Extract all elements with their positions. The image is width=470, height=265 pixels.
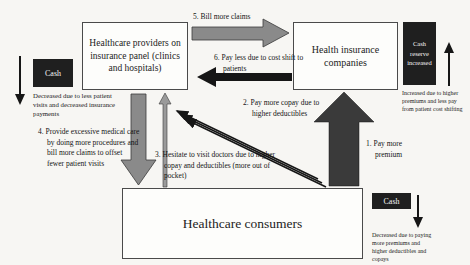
flow-text: Pay more premium (374, 139, 403, 159)
flow-number: 1. (366, 139, 372, 148)
healthcare-flow-diagram: Healthcare providers on insurance panel … (0, 0, 470, 265)
flow-text: Provide excessive medical care by doing … (46, 127, 140, 168)
providers-box-title: Healthcare providers on insurance panel … (87, 37, 183, 74)
flow-label-excessive-care: 4. Provide excessive medical care by doi… (38, 127, 141, 169)
cash-box-insurance-label: Cash reserve increased (406, 39, 433, 68)
flow-label-pay-copay: 2. Pay more copay due to higher deductib… (243, 98, 324, 119)
insurance-box: Health insurance companies (293, 22, 398, 90)
flow-label-pay-premium: 1. Pay more premium (366, 139, 425, 160)
cash-box-consumers: Cash (372, 193, 411, 209)
cash-box-providers-label: Cash (45, 69, 61, 78)
consumers-box: Healthcare consumers (122, 188, 363, 259)
flow-label-hesitate: 3. Hesitate to visit doctors due to high… (155, 150, 276, 182)
flow-number: 2. (243, 98, 249, 107)
consumers-box-title: Healthcare consumers (183, 216, 303, 232)
bill-more-claims-arrow (192, 19, 289, 47)
cash-note-insurance: Increased due to higher premiums and les… (402, 89, 466, 113)
cash-note-consumers: Decreased due to paying more premiums an… (372, 231, 436, 263)
flow-text: Bill more claims (201, 12, 251, 21)
cash-box-providers: Cash (33, 59, 73, 87)
flow-number: 4. (38, 127, 44, 136)
cash-decrease-arrow-consumers (413, 195, 423, 228)
flow-number: 6. (214, 53, 220, 62)
flow-number: 5. (193, 12, 199, 21)
insurance-box-title: Health insurance companies (308, 43, 383, 70)
cash-decrease-arrow-providers (15, 56, 25, 105)
flow-text: Hesitate to visit doctors due to higher … (163, 150, 275, 180)
cash-box-insurance: Cash reserve increased (403, 22, 436, 85)
cash-box-consumers-label: Cash (384, 197, 400, 206)
flow-label-pay-less: 6. Pay less due to cost shift to patient… (214, 53, 305, 74)
providers-box: Healthcare providers on insurance panel … (82, 22, 188, 90)
flow-text: Pay less due to cost shift to patients (222, 53, 304, 73)
flow-text: Pay more copay due to higher deductibles (251, 98, 320, 118)
cash-note-providers: Decreased due to less patient visits and… (33, 91, 123, 119)
cash-increase-arrow-insurance (444, 42, 454, 86)
flow-label-bill-claims: 5. Bill more claims (193, 12, 292, 23)
flow-number: 3. (155, 150, 161, 159)
